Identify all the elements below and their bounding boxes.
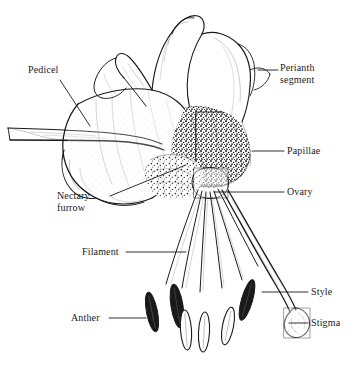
- filament-group: [166, 189, 258, 292]
- anther: [143, 291, 161, 332]
- label-papillae: Papillae: [287, 145, 320, 157]
- anther: [197, 312, 210, 353]
- label-stigma: Stigma: [311, 317, 340, 329]
- anther: [179, 310, 193, 351]
- label-pedicel: Pedicel: [28, 64, 58, 76]
- label-perianth-segment: Perianth segment: [280, 62, 315, 85]
- label-nectary-furrow: Nectary furrow: [57, 190, 90, 213]
- anther: [236, 278, 258, 321]
- label-ovary: Ovary: [287, 186, 313, 198]
- anther: [219, 306, 237, 345]
- label-style: Style: [311, 286, 332, 298]
- label-anther: Anther: [71, 312, 100, 324]
- label-filament: Filament: [82, 246, 119, 258]
- flower-diagram-figure: Pedicel Perianth segment Papillae Ovary …: [0, 0, 352, 375]
